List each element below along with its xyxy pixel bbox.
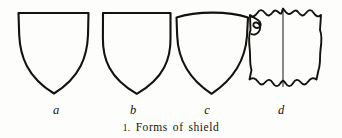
shield-a-outline <box>19 13 89 94</box>
shield-label-c: c <box>204 104 210 117</box>
shield-b-outline <box>103 13 171 94</box>
shield-illustration <box>0 0 342 138</box>
shield-label-a: a <box>53 104 59 117</box>
shield-d-outline <box>249 9 322 87</box>
figure-caption-text: Forms of shield <box>136 121 220 133</box>
shield-label-b: b <box>130 104 136 117</box>
shield-c-outline <box>177 13 249 94</box>
figure-caption: 1. Forms of shield <box>0 121 342 133</box>
shield-label-d: d <box>278 104 284 117</box>
figure-forms-of-shield: a b c d 1. Forms of shield <box>0 0 342 138</box>
figure-caption-number: 1. <box>123 123 131 133</box>
